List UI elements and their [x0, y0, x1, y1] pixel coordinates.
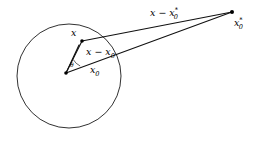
label-segment-x-minus-x0: x − x0	[86, 46, 115, 60]
angle-arc	[73, 60, 80, 67]
point-x0star-dot	[230, 10, 234, 14]
label-angle: θ	[70, 61, 74, 68]
label-point-x0star: x*0	[234, 16, 243, 30]
label-point-x: x	[71, 27, 77, 38]
circle-outline	[17, 24, 121, 128]
label-segment-x-minus-x0star: x − x*0	[150, 6, 179, 20]
point-x0-dot	[64, 71, 68, 75]
label-point-x0: x0	[90, 64, 100, 78]
point-x-dot	[80, 39, 84, 43]
geometry-figure: x x0 x − x0 x − x*0 x*0 θ	[0, 0, 260, 145]
diagram-canvas: x x0 x − x0 x − x*0 x*0 θ	[0, 0, 260, 145]
